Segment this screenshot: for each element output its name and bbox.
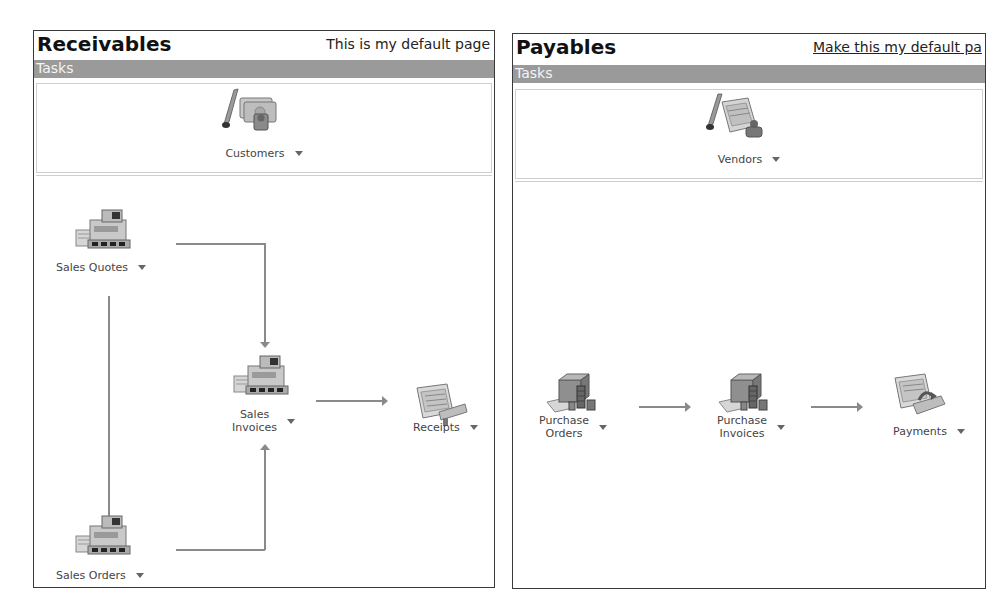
connector-orders-to-invoices (639, 406, 687, 408)
customers-node[interactable]: Customers (37, 146, 491, 160)
connector-quotes-to-invoices-v (264, 243, 266, 346)
connector-quotes-to-invoices-h (176, 243, 265, 245)
chevron-down-icon[interactable] (470, 425, 478, 430)
receivables-title: Receivables (37, 32, 171, 56)
sales-invoices-node[interactable]: Sales Invoices (232, 408, 295, 434)
chevron-down-icon[interactable] (136, 573, 144, 578)
sales-invoices-label-line1: Sales (240, 408, 269, 421)
tasks-bar: Tasks (34, 60, 494, 78)
sales-invoices-label-line2: Invoices (232, 421, 277, 434)
chevron-down-icon[interactable] (777, 425, 785, 430)
payments-node[interactable]: Payments (893, 424, 965, 438)
connector-orders-to-invoices-v (264, 450, 266, 550)
sales-orders-label: Sales Orders (56, 569, 126, 582)
connector-quotes-to-orders (108, 296, 110, 528)
chevron-down-icon[interactable] (772, 157, 780, 162)
customers-icon[interactable] (220, 86, 282, 132)
customers-label: Customers (225, 147, 284, 160)
connector-invoices-to-receipts (316, 400, 384, 402)
payables-panel: Payables Make this my default pa Tasks V… (512, 33, 986, 589)
arrow-down-icon (260, 342, 270, 348)
arrow-up-icon (260, 444, 270, 450)
purchase-orders-label-line1: Purchase (539, 414, 589, 427)
tasks-bar: Tasks (513, 65, 985, 83)
receipts-label: Receipts (413, 421, 460, 434)
chevron-down-icon[interactable] (295, 151, 303, 156)
connector-orders-to-invoices-h (176, 549, 265, 551)
payables-title: Payables (516, 35, 616, 59)
connector-invoices-to-payments (811, 406, 859, 408)
sales-orders-node[interactable]: Sales Orders (56, 568, 144, 582)
purchase-invoices-label-line2: Invoices (719, 427, 764, 440)
chevron-down-icon[interactable] (957, 429, 965, 434)
receipts-node[interactable]: Receipts (413, 420, 478, 434)
receivables-panel: Receivables This is my default page Task… (33, 30, 495, 588)
cash-register-icon[interactable] (74, 208, 134, 252)
cash-register-icon[interactable] (74, 514, 134, 558)
purchase-orders-node[interactable]: Purchase Orders (539, 414, 607, 440)
vendors-node[interactable]: Vendors (516, 152, 982, 166)
purchase-icon[interactable] (717, 372, 773, 416)
sales-quotes-label: Sales Quotes (56, 261, 128, 274)
chevron-down-icon[interactable] (138, 265, 146, 270)
make-default-page-link[interactable]: Make this my default pa (813, 39, 982, 55)
default-page-label: This is my default page (326, 36, 490, 52)
purchase-invoices-node[interactable]: Purchase Invoices (717, 414, 785, 440)
cash-register-icon[interactable] (232, 354, 292, 398)
arrow-right-icon (685, 402, 691, 412)
sales-quotes-node[interactable]: Sales Quotes (56, 260, 146, 274)
arrow-right-icon (382, 396, 388, 406)
chevron-down-icon[interactable] (599, 425, 607, 430)
vendors-section: Vendors (515, 89, 983, 179)
receivables-flow: Sales Quotes Sales Invoices (36, 175, 492, 585)
chevron-down-icon[interactable] (287, 419, 295, 424)
vendors-icon[interactable] (704, 92, 766, 138)
purchase-icon[interactable] (545, 372, 601, 416)
purchase-orders-label-line2: Orders (545, 427, 582, 440)
arrow-right-icon (857, 402, 863, 412)
payables-flow: Purchase Orders Purchase Invoices (515, 181, 983, 586)
payment-icon[interactable] (891, 372, 947, 418)
purchase-invoices-label-line1: Purchase (717, 414, 767, 427)
payments-label: Payments (893, 425, 947, 438)
vendors-label: Vendors (718, 153, 762, 166)
customers-section: Customers (36, 83, 492, 173)
